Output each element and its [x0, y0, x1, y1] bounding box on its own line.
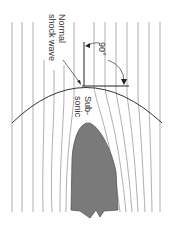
blunt-body: [71, 123, 118, 218]
shock-wave-diagram: Normal shock wave 90° Sub- sonic: [0, 0, 170, 230]
region-label-line2: sonic: [73, 96, 83, 118]
angle-label: 90°: [97, 42, 107, 56]
angle-arrowhead-left-icon: [85, 43, 90, 48]
shock-pointer-arrow: [63, 60, 80, 83]
arrowhead-icon: [77, 80, 81, 85]
angle-arrowhead-down-icon: [121, 79, 127, 85]
shock-label-line1: Normal: [57, 14, 67, 43]
region-label-line1: Sub-: [83, 96, 93, 115]
shock-label-line2: shock wave: [47, 14, 57, 61]
